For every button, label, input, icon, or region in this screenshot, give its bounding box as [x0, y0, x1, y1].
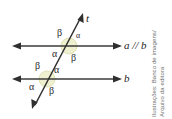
figure-page: a // b b t β α α β β α α β Ilustrações: … — [0, 0, 172, 119]
geometry-figure: a // b b t β α α β β α α β — [0, 0, 148, 119]
angle-lower-top-left: β — [35, 61, 40, 71]
angle-lower-bottom-right: β — [49, 86, 54, 96]
angle-upper-top-left: β — [57, 28, 62, 38]
angle-upper-bottom-right: β — [71, 53, 76, 63]
angle-upper-top-right: α — [76, 32, 80, 40]
line-t-label: t — [86, 13, 89, 24]
image-credit: Ilustrações: Banco de imagens/ Arquivo d… — [148, 0, 172, 119]
line-b-label: b — [124, 73, 130, 84]
line-a-label: a // b — [124, 40, 147, 51]
credit-line-1: Ilustrações: Banco de imagens/ — [151, 30, 157, 117]
credit-line-2: Arquivo da editora — [159, 67, 165, 118]
angle-lower-top-right: α — [54, 65, 59, 75]
angle-upper-bottom-left: α — [52, 49, 57, 59]
angle-lower-bottom-left: α — [29, 82, 34, 92]
